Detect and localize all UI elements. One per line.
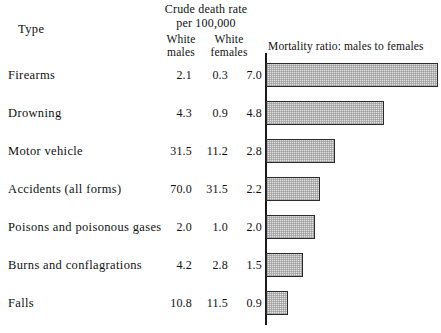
table-row: Accidents (all forms)70.031.52.2: [0, 177, 441, 201]
chart-bar: [266, 139, 335, 163]
column-header-white-females: White females: [203, 33, 255, 59]
cell-mortality-ratio: 4.8: [212, 101, 262, 125]
row-label-type: Falls: [8, 291, 34, 315]
column-header-white-males: White males: [155, 33, 207, 59]
row-label-type: Burns and conflagrations: [8, 253, 142, 277]
cell-mortality-ratio: 2.0: [212, 215, 262, 239]
cell-mortality-ratio: 2.2: [212, 177, 262, 201]
chart-bar: [266, 291, 288, 315]
mortality-ratio-figure: Type Crude death rate per 100,000 White …: [0, 0, 441, 333]
white-females-line1: White: [214, 33, 243, 45]
chart-bar: [266, 215, 315, 239]
column-header-type: Type: [18, 22, 44, 37]
row-label-type: Motor vehicle: [8, 139, 83, 163]
table-row: Poisons and poisonous gases2.01.02.0: [0, 215, 441, 239]
cell-mortality-ratio: 1.5: [212, 253, 262, 277]
white-females-line2: females: [203, 46, 255, 59]
crude-death-rate-line2: per 100,000: [148, 16, 264, 30]
table-row: Motor vehicle31.511.22.8: [0, 139, 441, 163]
white-males-line2: males: [155, 46, 207, 59]
cell-mortality-ratio: 0.9: [212, 291, 262, 315]
chart-title-mortality-ratio: Mortality ratio: males to females: [268, 40, 424, 52]
table-row: Falls10.811.50.9: [0, 291, 441, 315]
white-males-line1: White: [166, 33, 195, 45]
row-label-type: Firearms: [8, 63, 55, 87]
cell-mortality-ratio: 2.8: [212, 139, 262, 163]
column-header-crude-death-rate: Crude death rate per 100,000: [148, 2, 264, 30]
crude-death-rate-line1: Crude death rate: [165, 2, 248, 16]
chart-bar: [266, 253, 303, 277]
chart-bar: [266, 101, 384, 125]
row-label-type: Accidents (all forms): [8, 177, 122, 201]
table-row: Burns and conflagrations4.22.81.5: [0, 253, 441, 277]
row-label-type: Poisons and poisonous gases: [8, 215, 162, 239]
row-label-type: Drowning: [8, 101, 62, 125]
chart-bar: [266, 177, 320, 201]
chart-bar: [266, 63, 438, 87]
cell-mortality-ratio: 7.0: [212, 63, 262, 87]
